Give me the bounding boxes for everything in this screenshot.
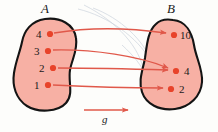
dot-a-4 bbox=[47, 31, 53, 37]
set-b-element-label-4: 4 bbox=[184, 66, 190, 77]
dot-b-4 bbox=[173, 68, 179, 74]
set-b-element-label-10: 10 bbox=[180, 30, 191, 41]
set-b-blob bbox=[140, 19, 202, 109]
dot-a-1 bbox=[45, 82, 51, 88]
set-a-element-label-1: 1 bbox=[34, 80, 40, 91]
dot-a-2 bbox=[50, 65, 56, 71]
set-a-blob bbox=[14, 19, 77, 111]
dot-a-3 bbox=[45, 48, 51, 54]
set-b-element-label-2: 2 bbox=[179, 84, 185, 95]
background-ghost-curves bbox=[78, 5, 152, 76]
dot-b-2 bbox=[168, 86, 174, 92]
set-a-element-label-4: 4 bbox=[36, 29, 42, 40]
set-b-label: B bbox=[167, 1, 175, 17]
dot-b-10 bbox=[171, 32, 177, 38]
set-a-label: A bbox=[41, 1, 49, 17]
set-a-element-label-2: 2 bbox=[39, 63, 45, 74]
function-name-label: g bbox=[102, 113, 108, 125]
set-a-element-label-3: 3 bbox=[34, 46, 40, 57]
mapping-diagram-figure: A B 4 3 2 1 10 4 2 g bbox=[0, 0, 218, 132]
